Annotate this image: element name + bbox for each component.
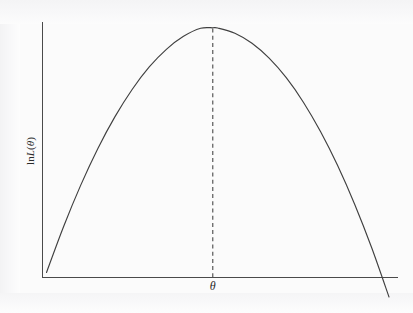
log-likelihood-curve [47,28,390,297]
y-axis-label-theta: θ [24,141,36,147]
y-axis-label-ln: ln [24,156,36,165]
x-axis-label: θ [198,279,228,294]
y-axis-label-function: L [24,150,36,156]
y-axis-label-open-paren: ( [24,146,36,150]
y-axis-label: lnL(θ) [24,106,36,196]
likelihood-figure: lnL(θ) θ [0,0,413,313]
y-axis-label-close-paren: ) [24,137,36,141]
plot-canvas [0,0,413,313]
